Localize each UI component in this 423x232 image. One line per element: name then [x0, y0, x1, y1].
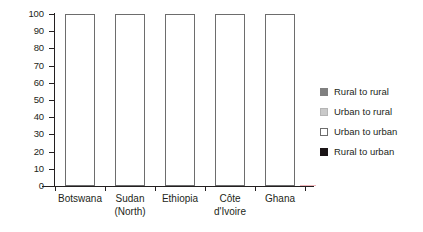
y-axis-tick-label: 100: [14, 9, 44, 19]
y-axis-tick-label: 20: [14, 147, 44, 157]
bar-segment-rural-to-rural: [65, 14, 95, 64]
chart-legend: Rural to ruralUrban to ruralUrban to urb…: [320, 84, 397, 164]
y-axis-tick-label: 60: [14, 78, 44, 88]
y-axis-tick-label: 90: [14, 26, 44, 36]
bar-segment-rural-to-urban: [115, 126, 145, 186]
bar-segment-rural-to-rural: [265, 14, 295, 35]
bar-segment-rural-to-urban: [265, 177, 295, 186]
bar-segment-rural-to-urban: [65, 81, 95, 186]
bar-ghana[interactable]: [265, 14, 295, 186]
stacked-bar-chart: 0102030405060708090100 BotswanaSudan(Nor…: [0, 0, 423, 232]
legend-label: Urban to rural: [334, 107, 392, 117]
bar-c-te-d-ivoire[interactable]: [215, 14, 245, 186]
category-label-line: d'Ivoire: [193, 206, 267, 219]
legend-label: Urban to urban: [334, 127, 397, 137]
x-axis-tick: [255, 186, 256, 191]
y-axis-tick-label: 0: [14, 181, 44, 191]
legend-item-rural-urban[interactable]: Rural to urban: [320, 144, 397, 160]
bar-segment-urban-to-rural: [215, 45, 245, 83]
legend-item-urban-urban[interactable]: Urban to urban: [320, 124, 397, 140]
bar-segment-urban-to-urban: [165, 112, 195, 134]
legend-swatch-icon: [320, 88, 328, 96]
legend-label: Rural to urban: [334, 147, 394, 157]
bar-segment-urban-to-urban: [215, 83, 245, 160]
y-axis-tick-label: 40: [14, 112, 44, 122]
legend-swatch-icon: [320, 148, 328, 156]
y-axis-tick-label: 70: [14, 61, 44, 71]
y-axis-tick-label: 80: [14, 43, 44, 53]
plot-area: [55, 14, 305, 186]
y-axis-tick-label: 50: [14, 95, 44, 105]
category-label-line: Ghana: [243, 193, 317, 206]
y-axis-tick-label: 10: [14, 164, 44, 174]
x-axis-tick: [305, 186, 306, 191]
x-axis-tick: [155, 186, 156, 191]
bar-segment-urban-to-rural: [65, 64, 95, 67]
bar-segment-rural-to-rural: [115, 14, 145, 45]
y-axis-tick-label: 30: [14, 129, 44, 139]
bar-sudan-north[interactable]: [115, 14, 145, 186]
legend-label: Rural to rural: [334, 87, 389, 97]
bar-segment-rural-to-urban: [165, 134, 195, 186]
category-label: Ghana: [243, 193, 317, 206]
bar-segment-urban-to-urban: [265, 93, 295, 177]
bar-segment-urban-to-urban: [65, 67, 95, 81]
x-axis-tick: [105, 186, 106, 191]
bar-segment-urban-to-rural: [265, 35, 295, 93]
bar-segment-urban-to-urban: [115, 55, 145, 126]
bar-segment-rural-to-rural: [215, 14, 245, 45]
legend-swatch-icon: [320, 108, 328, 116]
bar-botswana[interactable]: [65, 14, 95, 186]
bar-ethiopia[interactable]: [165, 14, 195, 186]
x-axis-tick: [205, 186, 206, 191]
bar-segment-urban-to-rural: [165, 109, 195, 112]
bar-segment-rural-to-urban: [215, 160, 245, 186]
category-label-line: (North): [93, 206, 167, 219]
bar-segment-urban-to-rural: [115, 45, 145, 55]
x-axis-tick: [55, 186, 56, 191]
x-axis-line: [42, 186, 314, 187]
legend-item-rural-rural[interactable]: Rural to rural: [320, 84, 397, 100]
legend-swatch-icon: [320, 128, 328, 136]
bar-segment-rural-to-rural: [165, 14, 195, 109]
legend-item-urban-rural[interactable]: Urban to rural: [320, 104, 397, 120]
